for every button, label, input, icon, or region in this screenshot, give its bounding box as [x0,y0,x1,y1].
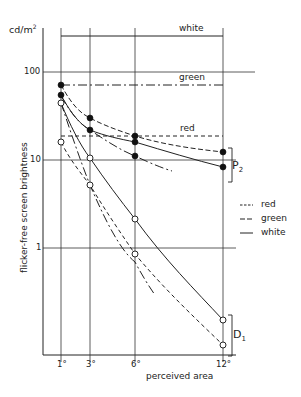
chart-canvas [0,0,301,397]
reference-lines [61,36,223,136]
p2-annotation: P2 [232,160,243,174]
x-tick-6: 6° [131,360,141,369]
d1-curves [61,103,223,345]
legend-label-white: white [261,228,286,237]
d1-subscript: 1 [241,335,245,343]
filled-markers [58,82,226,170]
curve-white-p2 [61,95,223,167]
axes [43,28,236,355]
x-axis-label: perceived area [146,372,213,381]
p2-curves [61,85,223,171]
y-unit-label: cd/m2 [9,24,37,35]
y-axis-label: flicker-free screen brightness [19,142,29,273]
p2-text: P [232,159,239,172]
x-tick-3: 3° [86,360,96,369]
p2-subscript: 2 [239,166,243,174]
ref-label-white: white [179,24,204,33]
y-tick-1: 1 [36,243,41,252]
brackets [228,148,232,356]
ref-label-red: red [180,124,195,133]
unit-superscript: 2 [33,23,37,30]
x-tick-12: 12° [216,360,231,369]
unit-text: cd/m [9,24,33,35]
d1-annotation: D1 [233,329,246,343]
y-tick-10: 10 [30,155,41,164]
curve-red-p2 [61,85,223,152]
y-tick-100: 100 [24,67,40,76]
open-markers [58,100,226,348]
curve-green-d1 [61,103,155,295]
ref-label-green: green [179,73,205,82]
d1-bracket [228,315,232,356]
legend-label-green: green [261,214,287,223]
legend-lines [240,205,253,233]
x-tick-1: 1° [57,360,67,369]
grid [43,28,255,362]
legend-label-red: red [261,200,276,209]
